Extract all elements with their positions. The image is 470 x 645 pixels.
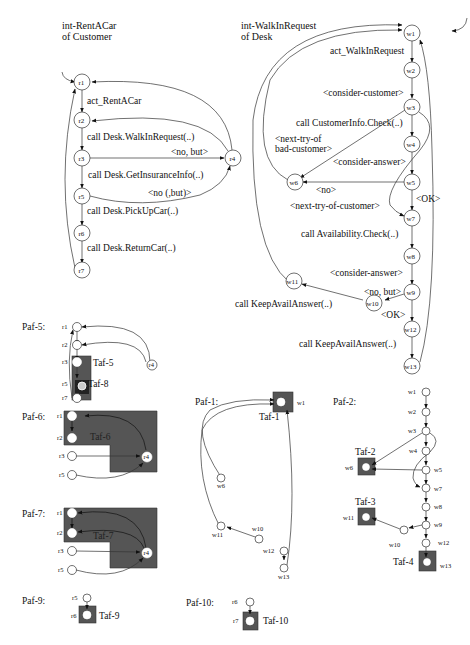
label-w2-w3: <consider-customer>: [323, 88, 404, 98]
node-w10: w10: [367, 300, 380, 308]
label-w3-w6-a: <next-try-of: [275, 134, 322, 144]
paf7-r2: r2: [57, 529, 62, 536]
taf-9-label: Taf-9: [99, 611, 120, 621]
paf6-r4: r4: [144, 453, 150, 460]
paf2-w4: w4: [409, 447, 418, 454]
label-w1-w2: act_WalkInRequest: [330, 46, 405, 56]
paf7-r1: r1: [57, 509, 62, 516]
paf-10: Paf-10: r6 r7 Taf-10: [186, 598, 288, 630]
label-w10-w11: call KeepAvailAnswer(..): [235, 299, 332, 310]
paf1-w12: w12: [263, 547, 274, 554]
paf5-r2: r2: [62, 341, 67, 348]
paf9-r6: r6: [71, 612, 77, 619]
label-r5-r6: call Desk.PickUpCar(..): [87, 206, 178, 217]
walkin-graph: int-WalkInRequest of Desk w1 w2 w3: [235, 18, 467, 374]
paf2-w8: w8: [434, 503, 442, 510]
node-w11: w11: [287, 278, 299, 286]
paf2-w5: w5: [434, 466, 442, 473]
paf2-w1: w1: [408, 388, 416, 395]
label-r2-r3: call Desk.WalkInRequest(..): [87, 132, 194, 143]
node-w13: w13: [405, 363, 418, 371]
node-w8: w8: [407, 253, 416, 261]
taf-1-label: Taf-1: [259, 412, 280, 422]
paf10-r7: r7: [233, 617, 239, 624]
paf2-w2: w2: [408, 408, 416, 415]
paf1-w11: w11: [212, 531, 223, 538]
label-w5-w7: <OK>: [416, 194, 440, 204]
paf6-r1: r1: [57, 412, 62, 419]
paf-9: Paf-9: r5 r6 Taf-9: [22, 594, 120, 623]
paf1-w10: w10: [252, 525, 263, 532]
taf-2-label: Taf-2: [355, 447, 376, 457]
paf2-label: Paf-2:: [333, 397, 356, 407]
paf1-label: Paf-1:: [195, 397, 218, 407]
paf-1: Paf-1: w1 w6 w10 w11 w12 w13 Taf-1: [195, 392, 305, 580]
paf1-w1: w1: [297, 399, 305, 406]
taf-10-label: Taf-10: [263, 616, 288, 626]
node-r2: r2: [79, 117, 85, 125]
taf-4-label: Taf-4: [393, 557, 414, 567]
paf6-r2: r2: [57, 434, 62, 441]
paf6-label: Paf-6:: [22, 412, 45, 422]
node-w12: w12: [405, 326, 418, 334]
paf6-r3: r3: [59, 452, 64, 459]
paf-7: Paf-7: r1 r2 r3 r4 r5 Taf-7: [22, 508, 157, 575]
paf-5: Paf-5: r1 r2 w3 r3 r4 r5 r7 Taf-5 Taf-8: [22, 322, 157, 403]
paf6-r5: r5: [59, 471, 64, 478]
paf2-w9: w9: [434, 521, 442, 528]
label-r3-r4: <no, but>: [171, 147, 208, 157]
rentacar-graph: int-RentACar of Customer r1 r2 r3 r4 r5 …: [62, 20, 241, 278]
paf2-w13: w13: [440, 562, 451, 569]
paf2-w6: w6: [345, 464, 354, 471]
walkin-entry-arrow: [452, 18, 467, 31]
node-r5: r5: [79, 193, 85, 201]
paf10-r6: r6: [232, 598, 238, 605]
walkin-title-2: of Desk: [241, 31, 272, 42]
edge-r7-r1: [65, 89, 75, 268]
label-w5-w6: <no>: [316, 185, 336, 195]
paf2-w3: w3: [408, 427, 416, 434]
paf5-r3-label: r3: [62, 358, 67, 365]
paf5-r1: r1: [62, 323, 67, 330]
node-w7: w7: [407, 215, 416, 223]
paf1-w13: w13: [278, 573, 289, 580]
paf2-w11: w11: [343, 514, 354, 521]
node-r1: r1: [79, 79, 85, 87]
paf-2: Paf-2: w1 w2 w3 w4 w5 w6: [333, 388, 451, 571]
node-w2: w2: [407, 67, 416, 75]
paf10-label: Paf-10:: [186, 598, 214, 608]
paf1-w6: w6: [217, 482, 226, 489]
taf-6-label: Taf-6: [90, 432, 111, 442]
taf-5-label: Taf-5: [93, 358, 114, 368]
edge-w10-w11: [302, 284, 363, 300]
paf7-r5: r5: [58, 566, 63, 573]
node-r6: r6: [79, 230, 85, 238]
label-r1-r2: act_RentACar: [87, 96, 142, 106]
node-r4: r4: [230, 155, 236, 163]
node-r3: r3: [79, 155, 85, 163]
paf-6: Paf-6: r1 r2 r3 r4 r5 Taf-6: [22, 411, 157, 480]
paf5-r5: r5: [62, 380, 67, 387]
paf7-r3: r3: [58, 547, 63, 554]
taf-8-label: Taf-8: [88, 379, 109, 389]
paf2-w12: w12: [438, 539, 449, 546]
paf5-label: Paf-5:: [22, 322, 45, 332]
taf-7-label: Taf-7: [93, 531, 114, 541]
node-w4: w4: [407, 141, 416, 149]
node-w5: w5: [407, 179, 416, 187]
taf-3-label: Taf-3: [355, 497, 376, 507]
label-w7-w8: call Availability.Check(..): [301, 229, 398, 240]
paf5-r4: r4: [149, 361, 155, 368]
paf9-label: Paf-9:: [22, 596, 45, 606]
label-w9-w10: <no, but>: [364, 287, 401, 297]
paf7-label: Paf-7:: [22, 509, 45, 519]
paf9-r5: r5: [72, 594, 77, 601]
label-w4-w5: <consider-answer>: [333, 157, 406, 167]
label-w3-w7: <next-try-of-customer>: [290, 201, 380, 211]
label-w12-w13: call KeepAvailAnswer(..): [299, 339, 396, 350]
paf5-r7: r7: [62, 394, 68, 401]
taf-6-box: [64, 411, 157, 472]
label-w8-w9: <consider-answer>: [330, 268, 403, 278]
node-w9: w9: [407, 289, 416, 297]
paf7-r4: r4: [144, 549, 150, 556]
